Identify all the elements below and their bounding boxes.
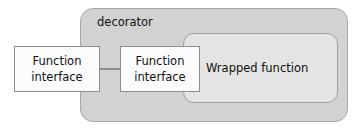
inner-function-interface-box: Function interface	[120, 46, 200, 92]
outer-function-interface-box: Function interface	[14, 46, 100, 92]
inner-function-interface-label-line1: Function	[136, 53, 185, 69]
decorator-label: decorator	[97, 15, 153, 29]
inner-function-interface-label-line2: interface	[134, 69, 185, 85]
wrapped-function-label: Wrapped function	[206, 61, 308, 75]
outer-function-interface-label-line2: interface	[31, 69, 82, 85]
diagram-canvas: decorator Wrapped function Function inte…	[0, 0, 359, 129]
outer-function-interface-label-line1: Function	[33, 53, 82, 69]
connector-line	[99, 68, 121, 70]
